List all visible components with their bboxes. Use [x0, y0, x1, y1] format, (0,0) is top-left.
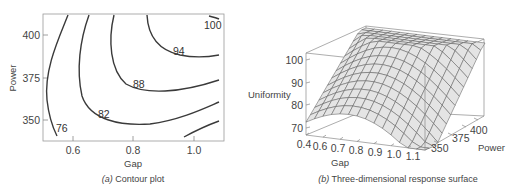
- x-tick-label: 0.7: [331, 142, 346, 154]
- y-tick-label: 375: [22, 72, 40, 84]
- caption-text: Contour plot: [113, 174, 165, 184]
- z-tick-label: 90: [291, 77, 303, 89]
- caption-prefix: (b): [318, 174, 329, 184]
- y-tick-label: 400: [22, 29, 40, 41]
- caption-prefix: (a): [102, 174, 113, 184]
- contour-88: [111, 15, 219, 91]
- contour-y-axis: 400 375 350 Power: [7, 29, 48, 126]
- caption-text: Three-dimensional response surface: [329, 174, 477, 184]
- x-tick-label: 1.0: [187, 144, 202, 156]
- x-tick-label: 1.0: [387, 148, 402, 160]
- z-axis-title: Uniformity: [248, 89, 291, 100]
- x-axis-title: Gap: [331, 157, 349, 168]
- contour-label-88: 88: [133, 78, 145, 90]
- contour-label-100: 100: [204, 19, 222, 31]
- surface-z-axis: 100 90 80 70 Uniformity: [248, 54, 310, 134]
- y-tick-label: 400: [470, 124, 488, 136]
- x-tick-label: 0.9: [368, 146, 383, 158]
- x-tick-label: 0.8: [349, 144, 364, 156]
- x-axis-title: Gap: [124, 158, 142, 169]
- z-tick-label: 80: [291, 99, 303, 111]
- contour-label-82: 82: [98, 108, 110, 120]
- contour-70: [184, 121, 219, 137]
- y-tick-label: 350: [431, 142, 449, 154]
- surface-caption: (b) Three-dimensional response surface: [318, 174, 477, 184]
- surface-plot: 100 90 80 70 Uniformity 0.4 0.6 0.7 0.8 …: [248, 26, 505, 184]
- contour-plot: 400 375 350 Power 0.6 0.8 1.0 Gap 76: [7, 14, 224, 184]
- y-axis-title: Power: [478, 142, 505, 153]
- x-tick-label: 0.4: [297, 138, 312, 150]
- z-tick-label: 70: [291, 122, 303, 134]
- contour-76: [47, 15, 68, 136]
- y-tick-label: 350: [22, 114, 40, 126]
- contour-lines: [47, 15, 219, 137]
- x-tick-label: 0.8: [126, 144, 141, 156]
- x-tick-label: 0.6: [313, 140, 328, 152]
- contour-labels: 76 82 88 94 100: [56, 19, 222, 134]
- x-tick-label: 0.6: [66, 144, 81, 156]
- x-tick-label: 1.1: [406, 150, 421, 162]
- contour-label-94: 94: [173, 45, 185, 57]
- contour-label-76: 76: [56, 122, 68, 134]
- y-tick-label: 375: [452, 132, 470, 144]
- z-tick-label: 100: [285, 54, 303, 66]
- y-axis-title: Power: [7, 65, 18, 92]
- figure-canvas: 400 375 350 Power 0.6 0.8 1.0 Gap 76: [0, 0, 508, 189]
- contour-caption: (a) Contour plot: [102, 174, 165, 184]
